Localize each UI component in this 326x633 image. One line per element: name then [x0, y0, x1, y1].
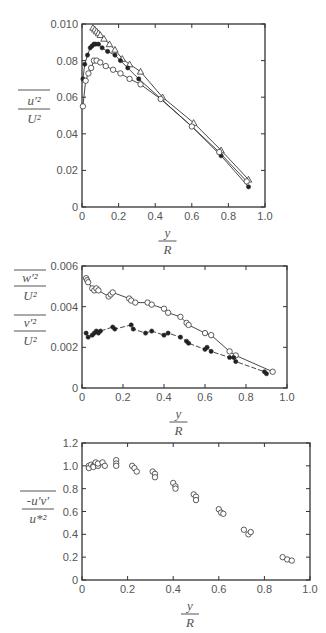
x-tick-label: 0.2: [111, 210, 126, 222]
filled-circle-marker: [131, 327, 135, 331]
filled-circle-marker: [234, 359, 238, 363]
open-circle-marker: [158, 96, 163, 101]
open-circle-marker: [149, 302, 154, 307]
filled-circle-marker: [137, 77, 141, 81]
y-axis-label-den: u*²: [30, 511, 48, 526]
y-tick-label: 0.06: [57, 91, 78, 103]
open-circle-marker: [86, 71, 91, 76]
y-axis-label-w-num: w′²: [22, 270, 39, 285]
y-tick-label: 0.02: [57, 164, 78, 176]
y-tick-label: 0.6: [63, 506, 78, 518]
y-axis-label-num: u′²: [27, 93, 41, 108]
open-circle-marker: [88, 65, 93, 70]
filled-circle-marker: [85, 53, 89, 57]
x-tick-label: 0.8: [221, 210, 236, 222]
filled-circle-marker: [228, 355, 232, 359]
filled-circle-marker: [98, 329, 102, 333]
x-tick-label: 0.4: [166, 583, 181, 595]
chart-3: 00.20.40.60.81.000.20.40.60.81.01.2yR-u′…: [20, 437, 318, 630]
y-tick-label: 0.08: [57, 55, 78, 67]
x-tick-label: 0.4: [148, 210, 163, 222]
x-tick-label: 0.2: [115, 391, 130, 403]
x-tick-label: 0: [79, 391, 85, 403]
filled-circle-marker: [205, 345, 209, 349]
filled-circle-marker: [187, 341, 191, 345]
filled-circle-marker: [84, 331, 88, 335]
open-circle-marker: [244, 179, 249, 184]
x-tick-label: 1.0: [302, 583, 317, 595]
filled-circle-marker: [100, 46, 104, 50]
open-circle-marker: [165, 310, 170, 315]
open-circle-marker: [202, 330, 207, 335]
filled-circle-marker: [178, 335, 182, 339]
filled-circle-marker: [246, 185, 250, 189]
open-circle-marker: [208, 332, 213, 337]
open-circle-marker: [138, 82, 143, 87]
y-axis-label-w-den: U²: [23, 288, 37, 303]
open-circle-marker: [178, 314, 183, 319]
filled-circle-marker: [83, 62, 87, 66]
filled-circle-marker: [143, 331, 147, 335]
y-tick-label: 0.010: [50, 18, 78, 30]
y-axis-label-v-den: U²: [23, 333, 37, 348]
x-tick-label: 0.6: [197, 391, 212, 403]
open-circle-marker: [103, 63, 108, 68]
filled-circle-marker: [118, 59, 122, 63]
open-circle-marker: [270, 369, 275, 374]
filled-circle-marker: [162, 333, 166, 337]
open-circle-marker: [173, 486, 178, 491]
filled-circle-marker: [86, 335, 90, 339]
open-circle-marker: [221, 511, 226, 516]
y-tick-label: 0: [72, 574, 78, 586]
open-circle-marker: [83, 78, 88, 83]
filled-circle-marker: [106, 49, 110, 53]
y-axis-label-num: -u′v′: [27, 493, 49, 508]
open-circle-marker: [186, 322, 191, 327]
x-tick-label: 1.0: [257, 210, 272, 222]
open-circle-marker: [127, 76, 132, 81]
y-tick-label: 0.4: [63, 528, 78, 540]
open-circle-marker: [193, 497, 198, 502]
series-line: [86, 325, 266, 374]
open-circle-marker: [114, 463, 119, 468]
x-axis-label-den: R: [163, 242, 172, 257]
open-circle-marker: [110, 67, 115, 72]
filled-circle-marker: [129, 323, 133, 327]
y-tick-label: 0.006: [50, 260, 78, 272]
open-circle-marker: [118, 71, 123, 76]
filled-circle-marker: [150, 329, 154, 333]
y-tick-label: 0: [72, 201, 78, 213]
open-circle-marker: [80, 104, 85, 109]
y-axis-label-v-num: v′²: [24, 315, 38, 330]
open-circle-marker: [102, 463, 107, 468]
filled-circle-marker: [113, 327, 117, 331]
triangle-marker: [137, 68, 143, 74]
x-axis-label-den: R: [185, 615, 194, 630]
filled-circle-marker: [264, 372, 268, 376]
open-circle-marker: [241, 527, 246, 532]
open-circle-marker: [134, 469, 139, 474]
y-tick-label: 0.002: [50, 341, 78, 353]
filled-circle-marker: [126, 66, 130, 70]
y-tick-label: 0.04: [57, 128, 78, 140]
figure-canvas: 00.20.40.60.81.000.020.040.060.080.010yR…: [0, 0, 326, 633]
filled-circle-marker: [166, 331, 170, 335]
y-axis-label-den: U²: [27, 111, 41, 126]
series-line: [83, 61, 247, 182]
open-circle-marker: [152, 475, 157, 480]
open-circle-marker: [227, 349, 232, 354]
open-circle-marker: [96, 288, 101, 293]
x-tick-label: 0.4: [156, 391, 171, 403]
filled-circle-marker: [96, 42, 100, 46]
open-circle-marker: [98, 60, 103, 65]
open-circle-marker: [189, 124, 194, 129]
x-axis-label-den: R: [174, 423, 183, 438]
x-tick-label: 0.8: [238, 391, 253, 403]
filled-circle-marker: [209, 349, 213, 353]
open-circle-marker: [110, 290, 115, 295]
y-tick-label: 1.0: [63, 460, 78, 472]
x-axis-label-num: y: [174, 406, 182, 421]
x-tick-label: 0: [79, 210, 85, 222]
open-circle-marker: [161, 306, 166, 311]
open-circle-marker: [133, 300, 138, 305]
